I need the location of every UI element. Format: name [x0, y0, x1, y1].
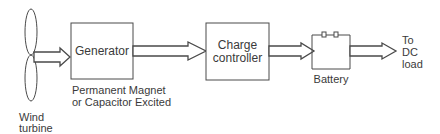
generator-label: Generator	[71, 45, 133, 57]
arrow-generator-to-controller	[133, 42, 206, 60]
generator-caption-line1: Permanent Magnet	[72, 84, 166, 96]
dc-load-label-line1: To	[402, 34, 414, 46]
charge-controller-label-line2: controller	[206, 52, 269, 64]
dc-load-label-line2: DC	[402, 46, 418, 58]
wind-turbine-label-line2: turbine	[19, 122, 53, 134]
dc-load-label-line3: load	[402, 58, 423, 70]
battery-icon	[312, 32, 350, 69]
battery-label: Battery	[311, 73, 351, 85]
arrow-controller-to-battery	[269, 43, 314, 59]
charge-controller-label-line1: Charge	[206, 39, 269, 51]
arrow-turbine-to-generator	[34, 48, 70, 66]
generator-caption-line2: or Capacitor Excited	[72, 96, 171, 108]
arrow-battery-to-load	[350, 43, 396, 59]
block-diagram	[0, 0, 440, 134]
